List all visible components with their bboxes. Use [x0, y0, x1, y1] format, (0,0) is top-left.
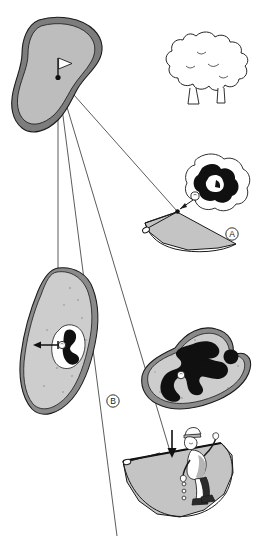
inset-ball: [191, 192, 199, 200]
label-b-text: B: [110, 396, 116, 406]
hole-point: [55, 75, 60, 80]
tree-trunk-left: [188, 88, 199, 104]
golfer-head: [184, 437, 197, 450]
relief-fan-golfer: [123, 428, 233, 517]
golf-diagram: A: [0, 0, 259, 536]
figure-canvas: A: [0, 0, 259, 536]
sight-line-to-fan-a: [58, 77, 177, 211]
ball-in-rough-inset: [180, 154, 250, 211]
label-a: A: [226, 228, 238, 240]
fan-a-origin-dot: [175, 209, 180, 214]
dropping-ball-2: [182, 489, 186, 493]
dropping-ball-1: [182, 482, 186, 486]
label-a-text: A: [229, 229, 235, 239]
bunker-green-b: [20, 268, 98, 415]
tree-canopy: [166, 32, 248, 90]
label-b: B: [107, 395, 119, 407]
golfer-hand-dropping: [180, 475, 186, 482]
fan-c-shape: [123, 443, 233, 517]
dropping-ball-3: [182, 496, 186, 500]
inset-pointer-head: [180, 203, 187, 209]
tree: [166, 32, 248, 104]
hazard-green-right: [142, 328, 251, 409]
relief-fan-a: [142, 209, 236, 252]
tree-trunk-right: [217, 88, 225, 103]
hazard-green-ball: [177, 371, 185, 379]
bunker-b-ball: [58, 341, 65, 348]
golfer-hand-raised: [213, 433, 219, 440]
dropping-balls: [182, 482, 186, 500]
putting-green-top: [12, 17, 102, 132]
